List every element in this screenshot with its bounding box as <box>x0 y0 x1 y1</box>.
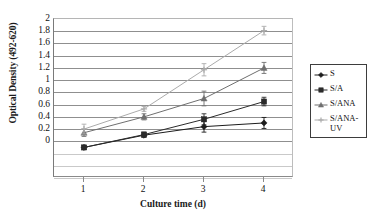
chart-legend: SS/AS/ANAS/ANA-UV <box>310 64 367 138</box>
x-axis-tick-label: 2 <box>128 184 158 194</box>
legend-label: S/ANA <box>330 99 356 109</box>
series-s-a <box>81 97 266 150</box>
data-point-marker <box>81 145 86 150</box>
chart-figure: Optical Density (492-620) 21.81.61.41.21… <box>0 0 377 220</box>
legend-item-s-ana-uv[interactable]: S/ANA-UV <box>314 114 364 133</box>
data-point-marker <box>261 28 267 34</box>
legend-item-s[interactable]: S <box>314 69 364 80</box>
data-point-marker <box>261 99 266 104</box>
x-axis-tickmarks <box>53 177 293 183</box>
y-axis-tick-labels: 21.81.61.41.210.80.60.40.20 <box>22 0 50 180</box>
y-axis-tick-label: 0.6 <box>24 99 50 108</box>
x-axis-title: Culture time (d) <box>53 199 293 209</box>
y-axis-tick-label: 1.2 <box>24 62 50 71</box>
y-axis-tick-label: 2 <box>24 14 50 23</box>
legend-marker-icon <box>314 70 328 80</box>
data-point-marker <box>261 65 267 71</box>
x-axis-tick-label: 1 <box>68 184 98 194</box>
legend-item-s-a[interactable]: S/A <box>314 84 364 95</box>
x-axis-tick-labels: 1234 <box>53 184 293 198</box>
y-axis-tick-label: 0.4 <box>24 111 50 120</box>
data-point-marker <box>201 67 207 73</box>
series-s-ana <box>81 62 267 136</box>
x-axis-tickmark <box>203 177 204 182</box>
series-s <box>81 117 267 150</box>
y-axis-tick-label: 0 <box>24 136 50 145</box>
data-point-marker <box>201 117 206 122</box>
data-point-marker <box>81 126 87 132</box>
legend-label: S/A <box>330 84 343 94</box>
y-axis-title: Optical Density (492-620) <box>8 0 18 148</box>
data-point-marker <box>261 120 267 126</box>
legend-marker-icon <box>314 115 328 125</box>
y-axis-title-container: Optical Density (492-620) <box>0 0 20 180</box>
x-axis-tickmark <box>83 177 84 182</box>
x-axis-tickmark <box>143 177 144 182</box>
data-point-marker <box>141 132 146 137</box>
y-axis-tick-label: 0.2 <box>24 124 50 133</box>
y-axis-tick-label: 1.8 <box>24 26 50 35</box>
x-axis-tickmark <box>263 177 264 182</box>
series-layer <box>54 19 294 178</box>
legend-label: S/ANA-UV <box>330 114 364 133</box>
y-axis-tick-label: 0.8 <box>24 87 50 96</box>
x-axis-tick-label: 4 <box>248 184 278 194</box>
y-axis-tick-label: 1.6 <box>24 38 50 47</box>
x-axis-tick-label: 3 <box>188 184 218 194</box>
legend-marker-icon <box>314 100 328 110</box>
legend-marker-icon <box>314 85 328 95</box>
y-axis-tick-label: 1.4 <box>24 50 50 59</box>
data-point-marker <box>201 95 207 101</box>
plot-area <box>53 18 293 177</box>
legend-item-s-ana[interactable]: S/ANA <box>314 99 364 110</box>
y-axis-tick-label: 1 <box>24 75 50 84</box>
legend-label: S <box>330 69 335 79</box>
